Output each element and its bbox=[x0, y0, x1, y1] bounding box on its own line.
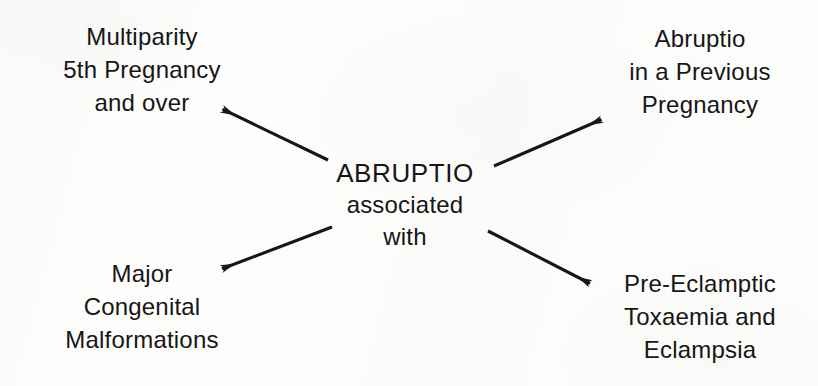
node-pre-eclamptic-line-2: Toxaemia and bbox=[584, 300, 816, 333]
node-pre-eclamptic: Pre-Eclamptic Toxaemia and Eclampsia bbox=[584, 267, 816, 366]
node-center-line-3: with bbox=[289, 221, 521, 253]
node-previous-abruptio-line-2: in a Previous bbox=[592, 55, 808, 88]
node-malformations-line-2: Congenital bbox=[12, 290, 272, 323]
node-malformations-line-1: Major bbox=[12, 257, 272, 290]
node-center-headline: ABRUPTIO bbox=[289, 158, 521, 189]
node-malformations-line-3: Malformations bbox=[12, 323, 272, 356]
node-center-abruptio: ABRUPTIO associated with bbox=[289, 158, 521, 253]
node-pre-eclamptic-line-1: Pre-Eclamptic bbox=[584, 267, 816, 300]
node-center-line-2: associated bbox=[289, 189, 521, 221]
node-previous-abruptio: Abruptio in a Previous Pregnancy bbox=[592, 22, 808, 121]
node-previous-abruptio-line-1: Abruptio bbox=[592, 22, 808, 55]
node-malformations: Major Congenital Malformations bbox=[12, 257, 272, 356]
node-multiparity-line-3: and over bbox=[17, 86, 267, 119]
abruptio-diagram: Multiparity 5th Pregnancy and over Abrup… bbox=[0, 0, 818, 386]
node-pre-eclamptic-line-3: Eclampsia bbox=[584, 333, 816, 366]
node-multiparity: Multiparity 5th Pregnancy and over bbox=[17, 20, 267, 119]
node-multiparity-line-2: 5th Pregnancy bbox=[17, 53, 267, 86]
node-multiparity-line-1: Multiparity bbox=[17, 20, 267, 53]
node-previous-abruptio-line-3: Pregnancy bbox=[592, 88, 808, 121]
